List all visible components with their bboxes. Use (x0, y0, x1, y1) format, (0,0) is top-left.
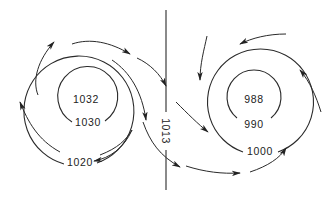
low-isobar-1000-label: 1000 (247, 145, 273, 157)
high-isobar-1030-label: 1030 (75, 116, 101, 128)
low-center-label: 988 (244, 93, 263, 105)
divider-label: 1013 (160, 118, 172, 144)
label-1013: 1013 (160, 118, 172, 144)
label-1032: 1032 (73, 93, 99, 105)
low-isobar-990-label: 990 (244, 118, 263, 130)
pressure-diagram: 1032 1030 1020 988 990 1000 1013 (0, 0, 331, 200)
label-990: 990 (244, 118, 263, 130)
high-center-label: 1032 (73, 93, 99, 105)
label-1030: 1030 (75, 116, 101, 128)
high-isobar-1020-label: 1020 (67, 156, 93, 168)
label-988: 988 (244, 93, 263, 105)
label-1020: 1020 (67, 156, 93, 168)
label-1000: 1000 (247, 145, 273, 157)
high-isobar-1020 (24, 56, 134, 164)
